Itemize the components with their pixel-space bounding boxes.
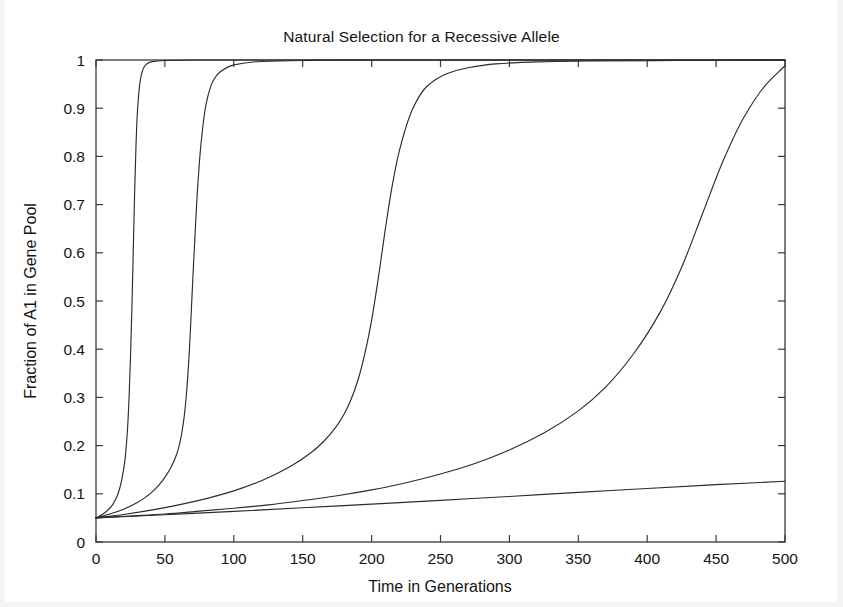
curve-3 [96,60,785,518]
x-tick-label: 200 [359,550,385,567]
plot-frame [96,60,785,542]
y-tick-label: 0.1 [63,485,85,502]
x-tick-label: 100 [221,550,247,567]
y-tick-label: 0.3 [63,389,85,406]
figure-canvas: Natural Selection for a Recessive Allele… [0,0,843,607]
curve-2 [96,60,785,518]
y-tick-label: 0.6 [63,244,85,261]
x-tick-label: 450 [703,550,729,567]
curve-4 [96,66,785,518]
plot-area: 050100150200250300350400450500 00.10.20.… [0,0,843,607]
x-tick-label: 500 [772,550,798,567]
y-tick-labels: 00.10.20.30.40.50.60.70.80.91 [63,52,85,551]
y-tick-label: 0 [76,534,85,551]
y-tick-label: 0.7 [63,196,85,213]
curve-5 [96,481,785,518]
y-tick-label: 0.5 [63,293,85,310]
y-tick-label: 1 [76,52,85,69]
x-axis-title: Time in Generations [368,578,511,595]
x-tick-label: 150 [290,550,316,567]
x-tick-label: 250 [428,550,454,567]
curve-1 [96,60,785,518]
y-tick-label: 0.2 [63,437,85,454]
x-tick-label: 350 [565,550,591,567]
x-tick-label: 50 [156,550,174,567]
x-tick-label: 300 [496,550,522,567]
data-curves [96,60,785,518]
y-tick-label: 0.8 [63,148,85,165]
x-tick-label: 0 [92,550,101,567]
x-tick-label: 400 [634,550,660,567]
y-axis-title: Fraction of A1 in Gene Pool [22,203,39,399]
y-axis-ticks [96,60,785,542]
x-tick-labels: 050100150200250300350400450500 [92,550,799,567]
y-tick-label: 0.4 [63,341,85,358]
y-tick-label: 0.9 [63,100,85,117]
x-axis-ticks [96,60,785,542]
